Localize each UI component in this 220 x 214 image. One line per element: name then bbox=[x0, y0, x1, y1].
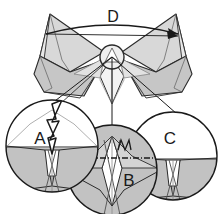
callout-label-b: B bbox=[123, 171, 134, 190]
butterfly-annotation-diagram: D C bbox=[0, 0, 220, 214]
callout-a-magnifier: A bbox=[6, 100, 98, 192]
callout-label-a: A bbox=[34, 129, 46, 148]
callout-label-c: C bbox=[164, 129, 176, 148]
figure-root: D C bbox=[0, 0, 220, 214]
callout-label-d: D bbox=[107, 8, 119, 25]
